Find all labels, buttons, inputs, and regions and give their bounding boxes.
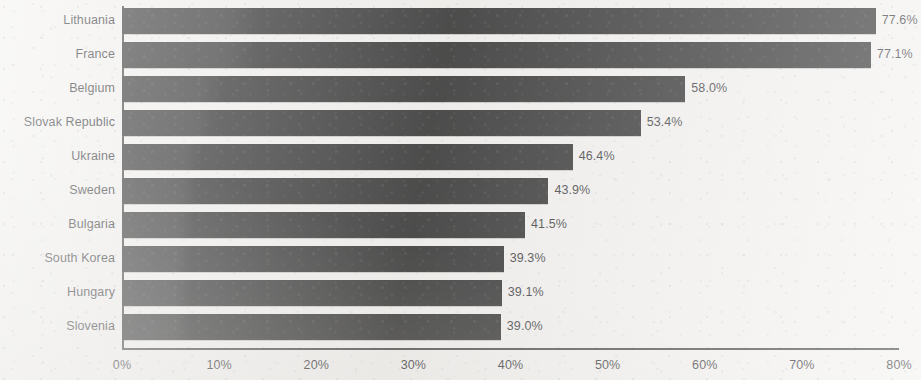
x-tick-label: 50% bbox=[573, 358, 643, 372]
category-label: Slovak Republic bbox=[0, 115, 115, 129]
bar-value-label: 41.5% bbox=[531, 217, 567, 231]
x-tick-label: 40% bbox=[476, 358, 546, 372]
bar-value-label: 53.4% bbox=[647, 115, 683, 129]
horizontal-bar-chart: LithuaniaFranceBelgiumSlovak RepublicUkr… bbox=[0, 0, 921, 380]
bar-value-label: 58.0% bbox=[691, 81, 727, 95]
bar-value-label: 39.1% bbox=[508, 285, 544, 299]
category-label: Sweden bbox=[0, 183, 115, 197]
bar bbox=[122, 76, 685, 102]
category-label: Slovenia bbox=[0, 319, 115, 333]
bar-value-label: 77.6% bbox=[882, 13, 918, 27]
category-label: Bulgaria bbox=[0, 217, 115, 231]
bar-value-label: 77.1% bbox=[877, 47, 913, 61]
x-tick-label: 60% bbox=[670, 358, 740, 372]
bar bbox=[122, 8, 876, 34]
x-axis-line bbox=[122, 348, 899, 350]
x-tick-label: 0% bbox=[87, 358, 157, 372]
bar-value-label: 43.9% bbox=[554, 183, 590, 197]
category-label: Lithuania bbox=[0, 13, 115, 27]
bar-value-label: 39.0% bbox=[507, 319, 543, 333]
category-label: South Korea bbox=[0, 251, 115, 265]
x-tick-label: 80% bbox=[864, 358, 921, 372]
category-label: Hungary bbox=[0, 285, 115, 299]
bar-value-label: 46.4% bbox=[579, 149, 615, 163]
plot-area: 77.6%77.1%58.0%53.4%46.4%43.9%41.5%39.3%… bbox=[122, 0, 899, 380]
x-tick-label: 20% bbox=[281, 358, 351, 372]
bar bbox=[122, 178, 548, 204]
x-tick-label: 70% bbox=[767, 358, 837, 372]
category-label: Ukraine bbox=[0, 149, 115, 163]
category-label: France bbox=[0, 47, 115, 61]
bar bbox=[122, 280, 502, 306]
category-label: Belgium bbox=[0, 81, 115, 95]
bar bbox=[122, 144, 573, 170]
bar bbox=[122, 314, 501, 340]
bar-value-label: 39.3% bbox=[510, 251, 546, 265]
x-tick-label: 30% bbox=[378, 358, 448, 372]
x-tick-label: 10% bbox=[184, 358, 254, 372]
bar bbox=[122, 246, 504, 272]
bar bbox=[122, 212, 525, 238]
bar bbox=[122, 42, 871, 68]
bar bbox=[122, 110, 641, 136]
